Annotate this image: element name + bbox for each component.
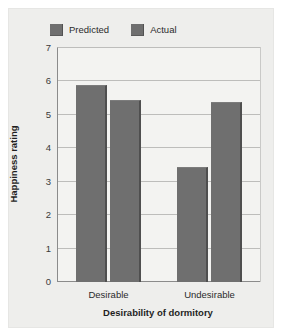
plot-inner: 01234567DesirableUndesirable xyxy=(58,48,260,282)
gridline-6 xyxy=(58,80,260,81)
chart-figure: Predicted Actual 01234567DesirableUndesi… xyxy=(0,0,282,336)
legend-swatch-actual xyxy=(131,24,144,36)
legend-entry-actual: Actual xyxy=(131,24,176,36)
legend-label-actual: Actual xyxy=(150,25,176,35)
y-axis-title: Happiness rating xyxy=(9,125,19,202)
legend-label-predicted: Predicted xyxy=(69,25,109,35)
y-tick-label-0: 0 xyxy=(46,277,51,287)
gridline-7 xyxy=(58,47,260,48)
x-axis-title: Desirability of dormitory xyxy=(57,308,259,318)
legend-swatch-predicted xyxy=(50,24,63,36)
y-tick-label-4: 4 xyxy=(46,144,51,154)
legend-entry-predicted: Predicted xyxy=(50,24,109,36)
plot-area: 01234567DesirableUndesirable xyxy=(57,47,261,282)
y-tick-label-1: 1 xyxy=(46,244,51,254)
y-tick-label-6: 6 xyxy=(46,77,51,87)
y-tick-label-5: 5 xyxy=(46,110,51,120)
chart-legend: Predicted Actual xyxy=(50,22,177,38)
bar-undesirable-predicted xyxy=(177,167,208,282)
bar-desirable-actual xyxy=(110,100,141,282)
y-tick-label-7: 7 xyxy=(46,43,51,53)
y-tick-label-3: 3 xyxy=(46,177,51,187)
x-tick-label-desirable: Desirable xyxy=(88,290,128,300)
y-tick-label-2: 2 xyxy=(46,210,51,220)
bar-undesirable-actual xyxy=(211,102,242,283)
bar-desirable-predicted xyxy=(76,85,107,282)
x-tick-label-undesirable: Undesirable xyxy=(184,290,235,300)
